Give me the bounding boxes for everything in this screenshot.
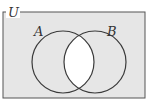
universe-label: U [8,5,20,20]
set-b-label: B [106,24,117,39]
set-a-label: A [33,24,43,39]
venn-diagram: U A B [0,0,155,105]
